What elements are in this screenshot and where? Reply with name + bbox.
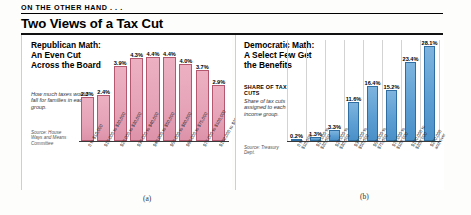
chart-panel-a: Republican Math: An Even Cut Across the …	[21, 35, 232, 190]
bar-value-label: 4.3%	[130, 52, 143, 58]
gridline	[287, 40, 288, 141]
figure-label-a: (a)	[143, 194, 151, 203]
kicker-text: ON THE OTHER HAND . . .	[21, 3, 123, 12]
bar-value-label: 11.6%	[346, 96, 362, 102]
bar-value-label: 16.4%	[365, 80, 381, 86]
bar-value-label: 2.4%	[97, 89, 110, 95]
chart-b-caption: Share of tax cuts assigned to each incom…	[244, 98, 288, 117]
chart-panel-b: Democratic Math: A Select Few Get the Be…	[235, 35, 444, 190]
bar-value-label: 4.4%	[147, 51, 160, 57]
infographic-page: ON THE OTHER HAND . . . Two Views of a T…	[0, 0, 471, 215]
chart-b-source: Source: Treasury Dept.	[244, 145, 284, 156]
bar-value-label: 4.4%	[163, 51, 176, 57]
bar-value-label: 3.7%	[196, 64, 209, 70]
gridline	[439, 40, 440, 141]
chart-a-source: Source: House Ways and Means Committee	[31, 130, 71, 146]
figure-label-b: (b)	[360, 192, 369, 201]
bar-value-label: 3.9%	[114, 60, 127, 66]
page-title: Two Views of a Tax Cut	[21, 16, 163, 31]
header-rule-top	[21, 13, 443, 14]
bar-value-label: 4.0%	[179, 58, 192, 64]
gridline	[306, 40, 307, 141]
bar-value-label: 2.9%	[212, 79, 225, 85]
chart-b-axis-heading: SHARE OF TAX CUTS	[244, 84, 288, 97]
bar-value-label: 28.1%	[422, 40, 438, 46]
bar-value-label: 2.3%	[81, 91, 94, 97]
bar-value-label: 23.4%	[403, 56, 419, 62]
bar-value-label: 15.2%	[384, 84, 400, 90]
